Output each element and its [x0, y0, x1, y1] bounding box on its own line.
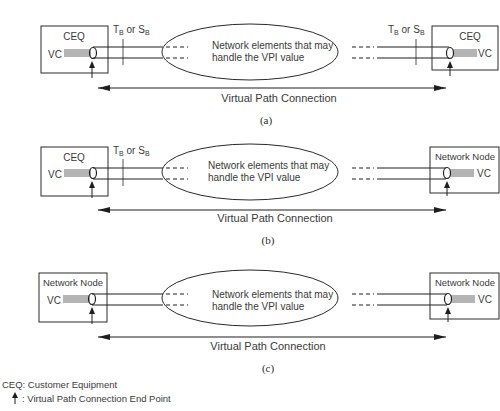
connection-label: Virtual Path Connection: [210, 340, 325, 352]
cloud-text-line2: handle the VPI value: [212, 52, 305, 63]
vc-bundle-icon: [64, 170, 91, 176]
panel-a: CEQ VC TB or SB Network elements that ma…: [41, 24, 498, 127]
vp-endpoint-ring-icon: [90, 168, 97, 179]
interface-label-left: TB or SB: [113, 145, 150, 157]
right-node-b: Network Node VC: [430, 147, 499, 196]
legend-ceq-text: CEQ: Customer Equipment: [2, 379, 117, 390]
vc-bundle-icon: [453, 50, 477, 56]
endpoint-arrow-icon: [89, 181, 95, 198]
left-node-a: CEQ VC: [41, 26, 108, 78]
vc-bundle-icon: [64, 50, 91, 56]
vc-label: VC: [478, 48, 492, 59]
legend: CEQ: Customer Equipment : Virtual Path C…: [2, 377, 171, 405]
left-node-c: Network Node VC: [39, 273, 107, 324]
legend-endpoint-text: : Virtual Path Connection End Point: [22, 393, 171, 404]
left-node-label: CEQ: [63, 31, 85, 42]
cloud-text-line2: handle the VPI value: [208, 172, 301, 183]
panel-caption: (b): [262, 234, 275, 247]
vc-bundle-icon: [450, 170, 474, 176]
vp-endpoint-ring-icon: [90, 48, 97, 59]
left-node-b: CEQ VC: [41, 147, 108, 198]
legend-row-endpoint: : Virtual Path Connection End Point: [2, 391, 171, 405]
vc-bundle-icon: [451, 296, 475, 302]
right-node-label: Network Node: [435, 151, 495, 162]
left-node-label: CEQ: [63, 152, 85, 163]
cloud-text-line1: Network elements that may: [212, 40, 333, 51]
endpoint-arrow-icon: [89, 61, 95, 78]
left-node-label: Network Node: [43, 277, 103, 288]
right-node-label: Network Node: [435, 277, 495, 288]
legend-row-ceq: CEQ: Customer Equipment: [2, 377, 171, 391]
vc-bundle-icon: [63, 296, 90, 302]
connection-label: Virtual Path Connection: [217, 212, 332, 224]
vp-endpoint-ring-icon: [444, 168, 451, 179]
panel-b: CEQ VC TB or SB Network elements that ma…: [41, 144, 499, 247]
vc-label: VC: [48, 49, 62, 60]
endpoint-arrow-icon: [447, 61, 453, 76]
panel-caption: (c): [262, 362, 275, 375]
endpoint-arrow-icon: [444, 181, 450, 196]
endpoint-arrow-icon: [445, 307, 451, 322]
cloud-text-line1: Network elements that may: [208, 160, 329, 171]
right-node-a: CEQ VC: [432, 26, 498, 76]
interface-label-right: TB or SB: [388, 24, 425, 36]
cloud-text-line1: Network elements that may: [212, 289, 333, 300]
connection-label: Virtual Path Connection: [221, 92, 336, 104]
endpoint-arrow-icon: [89, 307, 95, 324]
interface-label-left: TB or SB: [113, 24, 150, 36]
vp-endpoint-ring-icon: [447, 48, 454, 59]
vp-endpoint-ring-icon: [445, 294, 452, 305]
up-arrow-icon: [10, 392, 20, 404]
vp-endpoint-ring-icon: [89, 294, 96, 305]
vpc-diagram: CEQ VC TB or SB Network elements that ma…: [0, 0, 500, 411]
right-node-label: CEQ: [459, 31, 481, 42]
right-node-c: Network Node VC: [430, 273, 499, 322]
panel-c: Network Node VC Network elements that ma…: [39, 270, 499, 375]
vc-label: VC: [48, 169, 62, 180]
vc-label: VC: [478, 294, 492, 305]
panel-caption: (a): [260, 114, 273, 127]
vc-label: VC: [47, 295, 61, 306]
cloud-text-line2: handle the VPI value: [212, 301, 305, 312]
vc-label: VC: [477, 168, 491, 179]
